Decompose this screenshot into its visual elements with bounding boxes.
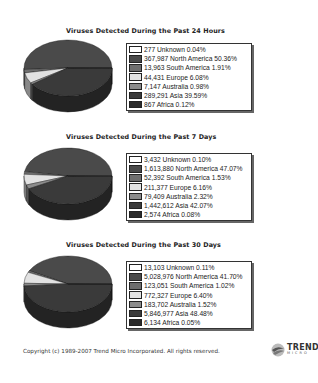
legend-label: 211,377 Europe 6.16% bbox=[144, 184, 212, 191]
legend-item: 7,147 Australia 0.98% bbox=[129, 82, 249, 91]
legend-label: 79,409 Australia 2.32% bbox=[144, 193, 213, 200]
legend-label: 5,846,977 Asia 48.48% bbox=[144, 310, 213, 317]
legend-label: 183,702 Australia 1.52% bbox=[144, 301, 217, 308]
trend-micro-ball-icon bbox=[271, 343, 285, 357]
legend-label: 6,134 Africa 0.05% bbox=[144, 319, 200, 326]
legend-label: 772,327 Europe 6.40% bbox=[144, 292, 212, 299]
legend-item: 867 Africa 0.12% bbox=[129, 100, 249, 109]
legend-item: 2,574 Africa 0.08% bbox=[129, 210, 249, 219]
legend-swatch bbox=[129, 291, 142, 299]
legend-swatch bbox=[129, 46, 142, 54]
legend-label: 3,432 Unknown 0.10% bbox=[144, 156, 211, 163]
legend-item: 3,432 Unknown 0.10% bbox=[129, 155, 249, 164]
chart-title: Viruses Detected During the Past 24 Hour… bbox=[66, 27, 225, 35]
legend-swatch bbox=[129, 83, 142, 91]
legend-item: 289,291 Asia 39.59% bbox=[129, 91, 249, 100]
legend-label: 1,442,612 Asia 42.07% bbox=[144, 202, 213, 209]
legend-swatch bbox=[129, 211, 142, 219]
legend-item: 6,134 Africa 0.05% bbox=[129, 318, 249, 327]
legend-swatch bbox=[129, 202, 142, 210]
legend-item: 52,392 South America 1.53% bbox=[129, 173, 249, 182]
legend-swatch bbox=[129, 319, 142, 327]
legend-label: 13,103 Unknown 0.11% bbox=[144, 264, 215, 271]
legend-label: 5,028,976 North America 41.70% bbox=[144, 273, 243, 280]
legend-swatch bbox=[129, 165, 142, 173]
legend-item: 13,963 South America 1.91% bbox=[129, 63, 249, 72]
chart-legend: 13,103 Unknown 0.11%5,028,976 North Amer… bbox=[126, 261, 252, 329]
legend-swatch bbox=[129, 183, 142, 191]
legend-item: 367,987 North America 50.36% bbox=[129, 54, 249, 63]
legend-label: 1,613,880 North America 47.07% bbox=[144, 165, 243, 172]
legend-item: 183,702 Australia 1.52% bbox=[129, 300, 249, 309]
copyright-text: Copyright (c) 1989-2007 Trend Micro Inco… bbox=[23, 348, 220, 354]
logo-subtext: MICRO bbox=[287, 352, 318, 356]
legend-item: 772,327 Europe 6.40% bbox=[129, 291, 249, 300]
legend-swatch bbox=[129, 101, 142, 109]
trend-micro-logo: TREND MICRO bbox=[271, 343, 318, 357]
legend-label: 289,291 Asia 39.59% bbox=[144, 92, 207, 99]
legend-label: 52,392 South America 1.53% bbox=[144, 174, 231, 181]
legend-label: 44,431 Europe 6.08% bbox=[144, 74, 209, 81]
legend-swatch bbox=[129, 264, 142, 272]
legend-swatch bbox=[129, 64, 142, 72]
chart-legend: 3,432 Unknown 0.10%1,613,880 North Ameri… bbox=[126, 153, 252, 221]
legend-swatch bbox=[129, 92, 142, 100]
pie-slice-north-america bbox=[25, 148, 112, 176]
pie-chart bbox=[22, 38, 114, 114]
legend-swatch bbox=[129, 193, 142, 201]
legend-swatch bbox=[129, 55, 142, 63]
legend-swatch bbox=[129, 310, 142, 318]
chart-title: Viruses Detected During the Past 30 Days bbox=[66, 241, 221, 249]
legend-swatch bbox=[129, 73, 142, 81]
chart-title: Viruses Detected During the Past 7 Days bbox=[66, 133, 216, 141]
legend-label: 367,987 North America 50.36% bbox=[144, 55, 237, 62]
legend-label: 2,574 Africa 0.08% bbox=[144, 211, 200, 218]
legend-item: 44,431 Europe 6.08% bbox=[129, 73, 249, 82]
chart-legend: 277 Unknown 0.04%367,987 North America 5… bbox=[126, 43, 252, 111]
legend-swatch bbox=[129, 156, 142, 164]
pie-side bbox=[31, 83, 33, 100]
legend-item: 5,846,977 Asia 48.48% bbox=[129, 309, 249, 318]
legend-item: 13,103 Unknown 0.11% bbox=[129, 263, 249, 272]
pie-slice-north-america bbox=[24, 40, 112, 70]
legend-swatch bbox=[129, 174, 142, 182]
legend-label: 13,963 South America 1.91% bbox=[144, 64, 231, 71]
legend-swatch bbox=[129, 301, 142, 309]
legend-swatch bbox=[129, 282, 142, 290]
legend-item: 5,028,976 North America 41.70% bbox=[129, 272, 249, 281]
pie-chart bbox=[22, 254, 114, 330]
legend-swatch bbox=[129, 273, 142, 281]
legend-item: 277 Unknown 0.04% bbox=[129, 45, 249, 54]
legend-label: 867 Africa 0.12% bbox=[144, 101, 195, 108]
pie-chart bbox=[22, 146, 114, 222]
legend-label: 123,051 South America 1.02% bbox=[144, 282, 234, 289]
legend-label: 7,147 Australia 0.98% bbox=[144, 83, 209, 90]
legend-item: 1,442,612 Asia 42.07% bbox=[129, 201, 249, 210]
legend-item: 123,051 South America 1.02% bbox=[129, 281, 249, 290]
legend-label: 277 Unknown 0.04% bbox=[144, 46, 206, 53]
legend-item: 79,409 Australia 2.32% bbox=[129, 192, 249, 201]
legend-item: 211,377 Europe 6.16% bbox=[129, 183, 249, 192]
legend-item: 1,613,880 North America 47.07% bbox=[129, 164, 249, 173]
